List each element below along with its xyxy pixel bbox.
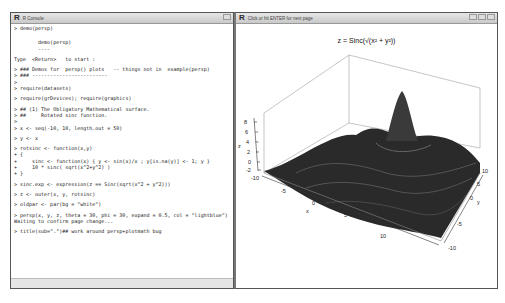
z-tick-neg2: -2 (246, 167, 251, 173)
y-tick-5: 5 (477, 181, 480, 187)
x-tick-neg5: -5 (281, 188, 286, 194)
console-output[interactable]: > demo(persp) demo(persp) ----Type <Retu… (14, 25, 230, 278)
console-titlebar[interactable]: R R Console (11, 13, 233, 24)
console-title: R Console (23, 16, 44, 21)
x-tick-10: 10 (380, 233, 386, 239)
r-logo-icon: R (14, 14, 20, 22)
z-tick-2: 2 (247, 149, 250, 155)
y-tick-10: 10 (482, 168, 488, 174)
x-axis-label: x (306, 208, 309, 214)
z-tick-8: 8 (244, 119, 247, 125)
r-console-window: R R Console > demo(persp) demo(persp) --… (10, 12, 234, 289)
x-tick-0: 0 (312, 200, 315, 206)
y-tick-neg5: -5 (457, 221, 462, 227)
console-scrollbar[interactable] (11, 278, 233, 288)
z-axis-label: z (238, 143, 241, 149)
console-line: > title(sub=".")## work around persp+plo… (14, 228, 230, 234)
y-axis-label: y (477, 199, 480, 205)
sinc-surface (264, 91, 480, 238)
x-tick-5: 5 (344, 212, 347, 218)
y-tick-0: 0 (470, 195, 473, 201)
console-line: > persp(x, y, z, theta = 30, phi = 30, e… (14, 212, 230, 218)
x-tick-neg10: -10 (251, 175, 259, 181)
r-graphics-window[interactable]: R Click or hit ENTER for next page z = S… (234, 12, 498, 289)
z-axis (254, 118, 261, 171)
z-tick-0: 0 (248, 159, 251, 165)
restore-button[interactable] (223, 14, 231, 20)
z-tick-4: 4 (246, 139, 249, 145)
persp-plot: 8 6 4 2 0 -2 z -10 -5 0 x 5 10 -10 -5 0 … (236, 13, 498, 278)
y-tick-neg10: -10 (448, 245, 456, 251)
z-tick-6: 6 (245, 129, 248, 135)
